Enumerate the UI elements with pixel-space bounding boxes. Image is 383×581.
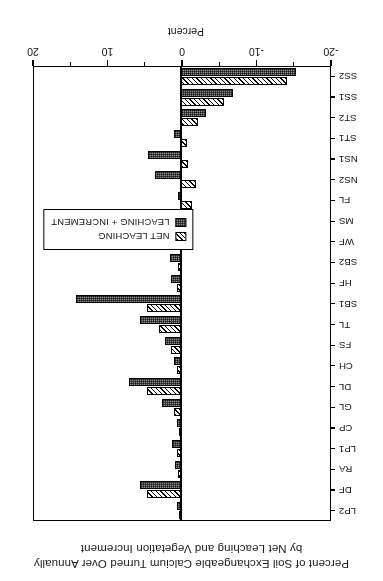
category-axis-tick — [332, 200, 336, 201]
bar-leaching-increment-dl — [129, 378, 181, 386]
bar-group-st1 — [34, 128, 330, 147]
bar-group-ss1 — [34, 87, 330, 106]
bar-leaching-increment-gl — [162, 399, 181, 407]
value-axis-tick-major — [32, 60, 33, 66]
category-label-ss2: SS2 — [339, 71, 379, 82]
value-axis-label: -20 — [316, 46, 346, 58]
bar-group-cp — [34, 417, 330, 436]
bar-group-df — [34, 479, 330, 498]
value-axis-tick-minor — [144, 63, 145, 67]
category-label-ns1: NS1 — [339, 154, 379, 165]
chart-legend: NET LEACHING LEACHING + INCREMENT — [43, 209, 193, 250]
category-label-ns2: NS2 — [339, 175, 379, 186]
value-axis-tick-minor — [293, 63, 294, 67]
category-label-ss1: SS1 — [339, 92, 379, 103]
value-axis-title: Percent — [168, 26, 204, 38]
bar-net-leaching-fl — [181, 201, 192, 209]
rotated-figure: Percent of Soil Exchangeable Calcium Tur… — [0, 0, 383, 581]
bar-leaching-increment-df — [140, 481, 181, 489]
value-axis-label: 0 — [167, 46, 197, 58]
category-label-cp: CP — [339, 423, 379, 434]
category-label-lp2: LP2 — [339, 506, 379, 517]
category-label-hf: HF — [339, 278, 379, 289]
bar-leaching-increment-ss2 — [181, 68, 296, 76]
legend-label-net-leaching: NET LEACHING — [98, 231, 170, 242]
bar-net-leaching-st1 — [181, 139, 187, 147]
chart-title: Percent of Soil Exchangeable Calcium Tur… — [0, 541, 383, 571]
bar-group-lp2 — [34, 500, 330, 519]
value-axis-tick-minor — [219, 63, 220, 67]
bar-group-ss2 — [34, 66, 330, 85]
bar-group-dl — [34, 376, 330, 395]
legend-item-leaching-increment: LEACHING + INCREMENT — [51, 216, 186, 229]
category-axis-tick — [332, 262, 336, 263]
bar-leaching-increment-ss1 — [181, 89, 233, 97]
category-label-ra: RA — [339, 464, 379, 475]
bar-group-ra — [34, 459, 330, 478]
bar-net-leaching-lp2 — [179, 511, 181, 519]
bar-net-leaching-tl — [159, 325, 181, 333]
category-axis-tick — [332, 427, 336, 428]
bar-group-sb1 — [34, 293, 330, 312]
bar-group-sb2 — [34, 252, 330, 271]
value-axis-tick-minor — [70, 63, 71, 67]
category-label-tl: TL — [339, 320, 379, 331]
chart-figure-container: Percent of Soil Exchangeable Calcium Tur… — [0, 0, 383, 581]
bar-leaching-increment-ns2 — [155, 171, 181, 179]
bar-leaching-increment-fs — [165, 337, 181, 345]
value-axis-label: 20 — [18, 46, 48, 58]
value-axis-tick-major — [256, 60, 257, 66]
category-label-ch: CH — [339, 361, 379, 372]
bar-leaching-increment-ra — [175, 461, 181, 469]
category-axis-tick — [332, 510, 336, 511]
category-axis-tick — [332, 138, 336, 139]
bar-leaching-increment-ch — [174, 357, 181, 365]
category-label-st1: ST1 — [339, 133, 379, 144]
category-axis-tick — [332, 324, 336, 325]
bar-leaching-increment-st1 — [174, 130, 181, 138]
bar-group-st2 — [34, 107, 330, 126]
chart-title-line-2: by Net Leaching and Vegetation Increment — [0, 541, 383, 556]
bar-net-leaching-lp1 — [177, 449, 181, 457]
bar-leaching-increment-sb1 — [76, 295, 181, 303]
bar-group-ch — [34, 355, 330, 374]
bar-leaching-increment-lp1 — [172, 440, 181, 448]
category-label-ms: MS — [339, 216, 379, 227]
bar-group-fl — [34, 190, 330, 209]
category-label-gl: GL — [339, 402, 379, 413]
legend-item-net-leaching: NET LEACHING — [51, 230, 186, 243]
bar-net-leaching-dl — [147, 387, 181, 395]
bar-net-leaching-gl — [174, 408, 181, 416]
bar-net-leaching-ns2 — [181, 180, 196, 188]
legend-swatch-net-leaching-icon — [176, 232, 187, 241]
bar-leaching-increment-hf — [171, 275, 181, 283]
value-axis-tick-major — [181, 60, 182, 66]
bar-net-leaching-hf — [177, 284, 181, 292]
bar-net-leaching-ra — [178, 470, 181, 478]
bar-net-leaching-df — [147, 490, 181, 498]
category-axis-tick — [332, 303, 336, 304]
category-axis-tick — [332, 448, 336, 449]
bar-net-leaching-ch — [177, 366, 181, 374]
bar-group-gl — [34, 397, 330, 416]
bar-leaching-increment-ns1 — [148, 151, 181, 159]
chart-title-line-1: Percent of Soil Exchangeable Calcium Tur… — [0, 556, 383, 571]
bar-group-ns1 — [34, 149, 330, 168]
category-axis-tick — [332, 158, 336, 159]
category-axis-tick — [332, 96, 336, 97]
value-axis-tick-major — [107, 60, 108, 66]
category-axis-tick — [332, 283, 336, 284]
plot-area: NET LEACHING LEACHING + INCREMENT — [33, 66, 331, 521]
bar-group-ns2 — [34, 169, 330, 188]
value-axis-label: 10 — [93, 46, 123, 58]
bar-net-leaching-sb1 — [147, 304, 181, 312]
category-axis-tick — [332, 407, 336, 408]
category-label-lp1: LP1 — [339, 444, 379, 455]
category-axis-tick — [332, 117, 336, 118]
category-axis-tick — [332, 345, 336, 346]
category-axis-tick — [332, 221, 336, 222]
bar-net-leaching-fs — [171, 346, 181, 354]
category-axis-tick — [332, 365, 336, 366]
bar-leaching-increment-fl — [178, 192, 181, 200]
bar-net-leaching-sb2 — [178, 263, 181, 271]
